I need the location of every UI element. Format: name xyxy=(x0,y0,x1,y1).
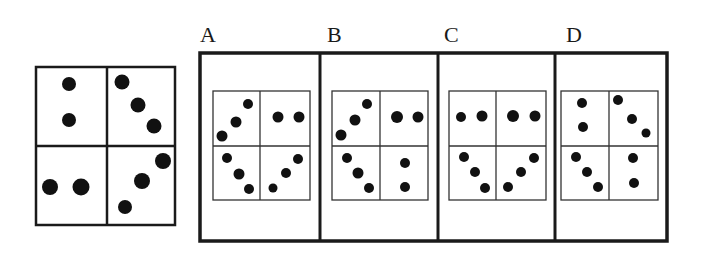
option-d[interactable] xyxy=(555,53,667,241)
option-c[interactable] xyxy=(438,53,555,241)
option-a[interactable] xyxy=(200,53,320,241)
option-b[interactable] xyxy=(320,53,438,241)
